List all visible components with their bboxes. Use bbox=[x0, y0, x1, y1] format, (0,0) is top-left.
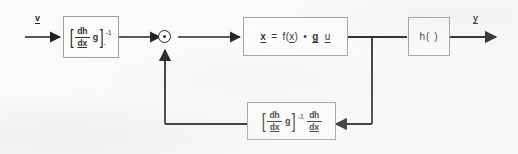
output-map-label: h( ) bbox=[420, 31, 439, 42]
state-derivative: x bbox=[260, 31, 266, 42]
input-gain-block: [ dh dx g ] -1 . bbox=[63, 16, 119, 58]
equals-sign: = bbox=[269, 31, 279, 42]
trailing-dot: . bbox=[103, 37, 106, 47]
dh-dx-fraction-second: dh dx bbox=[307, 111, 322, 131]
plant-dynamics-block: x = f(x) • g u bbox=[243, 17, 348, 56]
dh-dx-fraction: dh dx bbox=[75, 27, 90, 47]
bracket-close: ] bbox=[292, 113, 296, 130]
u-input: u bbox=[322, 31, 331, 42]
fraction-denominator: dx bbox=[269, 123, 281, 132]
input-signal-label: v bbox=[35, 13, 40, 23]
inverse-exponent: -1 bbox=[106, 29, 112, 36]
plant-equation: x = f(x) • g u bbox=[260, 31, 330, 42]
feedback-gain-block: [ dh dx g ] -1 dh dx bbox=[247, 102, 336, 140]
summing-junction-dot bbox=[163, 35, 166, 38]
output-signal-label: y bbox=[473, 13, 478, 23]
block-diagram-canvas: [ dh dx g ] -1 . x = f(x) • g u h( ) [ bbox=[0, 0, 518, 154]
inverse-exponent: -1 bbox=[298, 113, 304, 120]
g-symbol: g bbox=[282, 116, 292, 126]
g-symbol: g bbox=[90, 32, 100, 42]
bracket-open: [ bbox=[262, 113, 266, 130]
g-vector: g bbox=[312, 31, 318, 42]
fraction-denominator: dx bbox=[308, 123, 320, 132]
output-map-block: h( ) bbox=[408, 17, 450, 56]
feedback-gain-expression: [ dh dx g ] -1 dh dx bbox=[261, 111, 321, 131]
fraction-numerator: dh bbox=[76, 27, 88, 36]
plus-sign: • bbox=[301, 31, 309, 42]
bracket-open: [ bbox=[70, 29, 74, 46]
fraction-denominator: dx bbox=[76, 39, 88, 48]
f-close-paren: ) bbox=[295, 31, 299, 42]
fraction-numerator: dh bbox=[308, 111, 320, 120]
fraction-numerator: dh bbox=[268, 111, 280, 120]
input-gain-expression: [ dh dx g ] -1 . bbox=[69, 27, 113, 47]
dh-dx-fraction-first: dh dx bbox=[267, 111, 282, 131]
summing-junction bbox=[158, 30, 171, 43]
